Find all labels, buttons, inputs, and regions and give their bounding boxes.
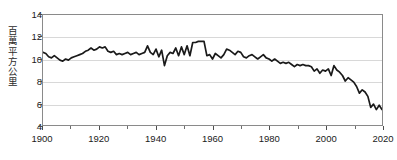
- plot-inner: [43, 15, 382, 125]
- data-series-line: [43, 15, 382, 125]
- x-tick-mark-minor: [184, 126, 185, 129]
- x-tick-mark-minor: [127, 126, 128, 129]
- x-tick-mark-minor: [355, 126, 356, 129]
- x-tick-label: 1920: [88, 133, 109, 144]
- x-tick-mark-minor: [298, 126, 299, 129]
- plot-area: [42, 14, 383, 126]
- x-tick-label: 1940: [145, 133, 166, 144]
- x-tick-mark: [383, 126, 384, 130]
- x-tick-mark: [99, 126, 100, 130]
- x-axis-ticks: 1900192019401960198020002020: [42, 126, 383, 152]
- x-tick-mark: [156, 126, 157, 130]
- x-tick-label: 2020: [372, 133, 393, 144]
- x-tick-mark-minor: [241, 126, 242, 129]
- x-tick-label: 1960: [202, 133, 223, 144]
- y-axis-ticks: 468101214: [12, 14, 42, 126]
- x-tick-mark: [326, 126, 327, 130]
- x-tick-label: 1980: [259, 133, 280, 144]
- x-tick-label: 1900: [31, 133, 52, 144]
- x-tick-mark-minor: [70, 126, 71, 129]
- x-tick-mark: [269, 126, 270, 130]
- x-tick-mark: [213, 126, 214, 130]
- x-tick-mark: [42, 126, 43, 130]
- sea-ice-extent-chart: 百萬平方公里 468101214 19001920194019601980200…: [0, 0, 397, 160]
- x-tick-label: 2000: [316, 133, 337, 144]
